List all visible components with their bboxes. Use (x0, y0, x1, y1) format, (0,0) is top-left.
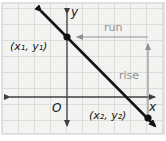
point-2-dot (144, 114, 151, 121)
x-axis-label: x (149, 101, 156, 113)
point-1-dot (63, 33, 70, 40)
y-axis-label: y (71, 6, 78, 18)
coordinate-plane-canvas (0, 0, 166, 141)
grid-lines (2, 3, 164, 134)
point-1-label: (x₁, y₁) (10, 41, 47, 52)
rise-label: rise (119, 70, 139, 81)
slope-diagram: y x O run rise (x₁, y₁) (x₂, y₂) (0, 0, 166, 141)
point-2-label: (x₂, y₂) (89, 110, 126, 121)
origin-label: O (52, 102, 61, 114)
run-label: run (104, 22, 122, 33)
